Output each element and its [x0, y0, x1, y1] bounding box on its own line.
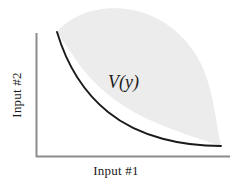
- y-axis-label-container: Input #2: [0, 33, 34, 157]
- input-requirement-set-region: [57, 8, 221, 146]
- y-axis-label: Input #2: [10, 72, 24, 117]
- x-axis-label: Input #1: [0, 164, 232, 178]
- isoquant-figure: [0, 0, 232, 188]
- region-label-v-of-y: V(y): [108, 72, 139, 92]
